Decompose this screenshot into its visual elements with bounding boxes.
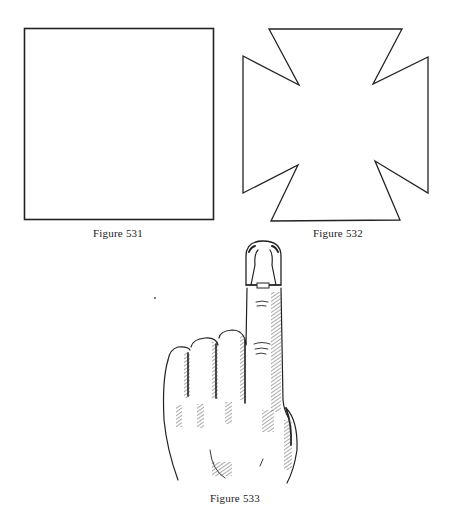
figure-533-caption: Figure 533	[210, 492, 260, 504]
figure-531-caption: Figure 531	[93, 227, 143, 239]
book-page: Figure 531 Figure 532 Figure 533	[0, 0, 453, 513]
illustrations	[0, 0, 453, 513]
figure-532-caption: Figure 532	[313, 227, 363, 239]
figure-533-hand	[154, 241, 297, 483]
figure-531-square	[25, 29, 214, 220]
fingertip-cap	[246, 241, 281, 288]
figure-532-cross	[243, 29, 428, 221]
